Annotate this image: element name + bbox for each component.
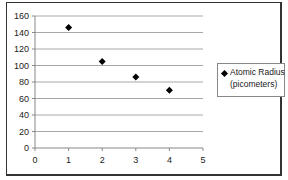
x-tick-label: 5 [200,155,205,165]
y-tick-label: 120 [14,44,29,54]
y-tick-label: 80 [19,77,29,87]
y-tick-label: 0 [24,143,29,153]
y-tick-label: 20 [19,127,29,137]
y-tick-label: 60 [19,94,29,104]
legend-label-line1: Atomic Radius [230,67,285,77]
data-point-diamond [65,24,72,31]
y-tick-label: 100 [14,61,29,71]
data-point-diamond [166,87,173,94]
y-tick-label: 160 [14,11,29,21]
legend-label-line2: (picometers) [230,79,277,89]
x-tick-label: 2 [100,155,105,165]
x-tick-label: 3 [133,155,138,165]
data-point-diamond [99,58,106,65]
y-tick-label: 140 [14,28,29,38]
chart-legend: Atomic Radius (picometers) [217,63,285,97]
data-point-diamond [132,74,139,81]
diamond-marker-icon [221,70,228,77]
x-tick-label: 0 [32,155,37,165]
x-tick-label: 4 [167,155,172,165]
y-tick-label: 40 [19,110,29,120]
x-tick-label: 1 [66,155,71,165]
